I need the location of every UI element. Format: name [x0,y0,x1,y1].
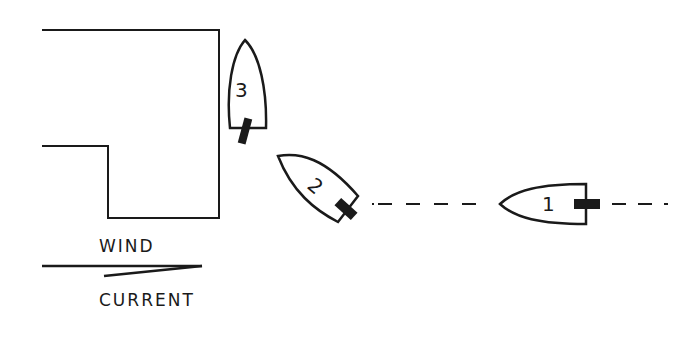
boat-1-outboard-motor-icon [574,199,600,209]
current-label: CURRENT [99,290,195,310]
wind-label: WIND [99,236,155,256]
boat-1-number: 1 [542,192,555,216]
boat-3-number: 3 [235,78,248,102]
dock-outline [42,30,219,218]
diagram-canvas [0,0,694,337]
wind-current-arrow-icon [42,266,202,276]
